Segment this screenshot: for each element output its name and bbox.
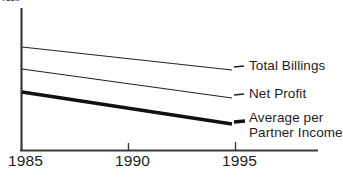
legend-label-average-per-partner-income: Average per Partner Income xyxy=(249,111,343,140)
legend-label-line-1: Average per xyxy=(249,111,343,126)
legend-label-total-billings: Total Billings xyxy=(249,59,325,73)
legend-dash-net-profit xyxy=(234,94,244,95)
series-line-total-billings xyxy=(22,47,232,70)
legend-dash-average-per-partner-income xyxy=(234,121,245,122)
x-tick-label-1985: 1985 xyxy=(8,153,43,169)
legend-dash-total-billings xyxy=(234,66,244,67)
legend-label-net-profit: Net Profit xyxy=(249,87,306,101)
legend-label-line-2: Partner Income xyxy=(249,126,343,141)
x-tick-label-1990: 1990 xyxy=(115,153,150,169)
x-tick-label-1995: 1995 xyxy=(222,153,257,169)
series-line-average-per-partner-income xyxy=(22,92,232,124)
series-line-net-profit xyxy=(22,69,232,98)
